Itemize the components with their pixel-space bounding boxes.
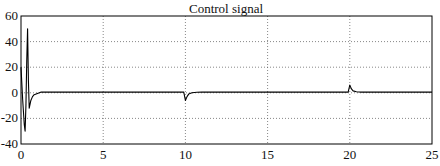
x-tick-label: 25 bbox=[426, 147, 439, 162]
control-signal-line bbox=[21, 29, 432, 131]
x-tick-label: 5 bbox=[100, 147, 107, 162]
y-tick-label: 60 bbox=[5, 8, 18, 23]
chart: Control signal -40-200204060 0510152025 bbox=[0, 0, 440, 166]
x-tick-label: 0 bbox=[18, 147, 25, 162]
y-tick-label: -20 bbox=[1, 110, 18, 125]
chart-title: Control signal bbox=[189, 1, 263, 16]
y-tick-label: -40 bbox=[1, 136, 18, 151]
y-tick-label: 20 bbox=[5, 59, 18, 74]
plot-area-border bbox=[21, 16, 432, 144]
y-axis-ticks: -40-200204060 bbox=[1, 8, 18, 151]
x-axis-ticks: 0510152025 bbox=[18, 147, 439, 162]
x-tick-label: 10 bbox=[179, 147, 192, 162]
x-tick-label: 20 bbox=[343, 147, 356, 162]
grid-lines bbox=[21, 16, 432, 144]
y-tick-label: 40 bbox=[5, 34, 18, 49]
y-tick-label: 0 bbox=[12, 85, 19, 100]
x-tick-label: 15 bbox=[261, 147, 274, 162]
